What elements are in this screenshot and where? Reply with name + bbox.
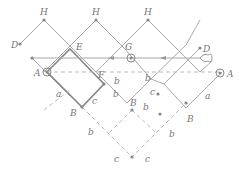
label-A: A [226,69,234,79]
label-b: b [143,102,149,112]
arrow-icon [160,56,166,60]
lattice-lines [20,20,222,108]
labels: H H H D D E G F A A B B B a a b b b b b … [10,7,234,164]
label-D: D [202,44,210,54]
label-c: c [114,154,119,164]
label-B: B [186,114,194,124]
label-A: A [33,68,41,78]
label-E: E [75,42,83,52]
label-c: c [150,87,155,97]
label-H: H [91,7,100,17]
points [18,18,224,158]
label-B: B [69,108,77,118]
label-b: b [114,76,120,86]
label-b: b [113,89,119,99]
light-source-icon [200,54,212,62]
label-a: a [205,91,210,101]
label-H: H [39,7,48,17]
label-c: c [92,96,97,106]
mirror-path-diagram: H H H D D E G F A A B B B a a b b b b b … [0,0,239,183]
label-c: c [145,154,150,164]
label-B: B [129,98,137,108]
dashed-lower [44,90,186,157]
label-F: F [97,70,105,80]
label-D: D [10,40,18,50]
label-H: H [143,7,152,17]
label-b: b [88,127,94,137]
label-a: a [56,89,61,99]
label-G: G [125,42,132,52]
label-b: b [169,129,175,139]
label-b: b [145,73,151,83]
